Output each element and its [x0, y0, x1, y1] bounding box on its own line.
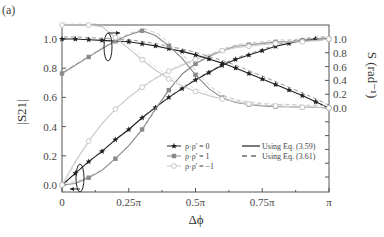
y-axis-left: 0.00.20.40.60.81.0	[43, 33, 66, 191]
y-right-tick-label: 0.2	[333, 88, 347, 100]
circle-marker-icon	[113, 35, 118, 40]
legend-label: ρ·ρ' = 0	[185, 142, 210, 151]
star-marker-icon	[259, 48, 265, 54]
star-marker-icon	[313, 99, 319, 105]
square-marker-icon	[193, 73, 197, 77]
annotation-ellipse-left	[76, 164, 84, 192]
circle-marker-icon	[273, 41, 278, 46]
star-marker-icon	[299, 92, 305, 98]
arrowhead-left-icon	[70, 187, 74, 191]
square-marker-icon	[140, 127, 144, 131]
x-tick-label: 0	[59, 196, 65, 208]
square-marker-icon	[87, 55, 91, 59]
circle-marker-icon	[300, 40, 305, 45]
y-left-tick-label: 0.2	[43, 150, 57, 162]
circle-marker-icon	[86, 23, 91, 28]
y-right-tick-label: 0.0	[333, 102, 347, 114]
circle-marker-icon	[247, 44, 252, 49]
star-marker-icon	[233, 56, 239, 62]
arrowhead-right-icon	[116, 31, 120, 35]
y-right-tick-label: 1.0	[333, 33, 347, 45]
circle-marker-icon	[300, 105, 305, 110]
y-left-tick-label: 0.0	[43, 179, 57, 191]
circle-marker-icon	[113, 107, 118, 112]
circle-marker-icon	[327, 37, 332, 42]
circle-marker-icon	[60, 183, 65, 188]
square-marker-icon	[60, 71, 64, 75]
circle-marker-icon	[327, 106, 332, 111]
circle-marker-icon	[140, 85, 145, 90]
y-left-tick-label: 0.8	[43, 62, 57, 74]
square-marker-icon	[167, 88, 171, 92]
x-axis-title: Δϕ	[188, 212, 203, 227]
square-marker-icon	[167, 44, 171, 48]
star-marker-icon	[286, 40, 292, 46]
legend: ρ·ρ' = 0ρ·ρ' = 1ρ·ρ' = −1Using Eq. (3.59…	[167, 142, 316, 171]
legend-label: ρ·ρ' = 1	[185, 152, 210, 161]
circle-marker-icon	[60, 23, 65, 28]
chart: (a) 00.25π0.5π0.75ππ 0.00.20.40.60.81.0 …	[0, 0, 384, 237]
legend-label: Using Eq. (3.59)	[262, 142, 316, 151]
legend-label: Using Eq. (3.61)	[262, 152, 316, 161]
y-axis-right-title: S (rad⁻¹)	[365, 52, 380, 99]
square-marker-icon	[172, 154, 176, 158]
star-marker-icon	[171, 143, 177, 149]
square-marker-icon	[113, 157, 117, 161]
y-right-tick-label: 0.8	[333, 47, 347, 59]
circle-marker-icon	[86, 139, 91, 144]
x-axis: 00.25π0.5π0.75ππ	[59, 188, 332, 208]
circle-marker-icon	[172, 164, 177, 169]
y-axis-left-title: |S21|	[14, 99, 29, 124]
circle-marker-icon	[140, 57, 145, 62]
square-marker-icon	[140, 29, 144, 33]
y-left-tick-label: 0.4	[43, 121, 57, 133]
x-tick-label: 0.75π	[250, 196, 275, 208]
circle-marker-icon	[193, 57, 198, 62]
x-tick-label: π	[326, 196, 332, 208]
x-tick-label: 0.5π	[186, 196, 206, 208]
y-right-tick-label: 0.6	[333, 61, 347, 73]
legend-label: ρ·ρ' = −1	[185, 162, 214, 171]
circle-marker-icon	[220, 48, 225, 53]
circle-marker-icon	[166, 77, 171, 82]
square-marker-icon	[87, 176, 91, 180]
circle-marker-icon	[273, 104, 278, 109]
circle-marker-icon	[247, 101, 252, 106]
x-tick-label: 0.25π	[116, 196, 141, 208]
y-right-tick-label: 0.4	[333, 74, 347, 86]
y-left-tick-label: 0.6	[43, 91, 57, 103]
star-marker-icon	[246, 52, 252, 58]
panel-label: (a)	[2, 3, 15, 17]
circle-marker-icon	[193, 89, 198, 94]
circle-marker-icon	[220, 97, 225, 102]
y-left-tick-label: 1.0	[43, 33, 57, 45]
circle-marker-icon	[166, 69, 171, 74]
